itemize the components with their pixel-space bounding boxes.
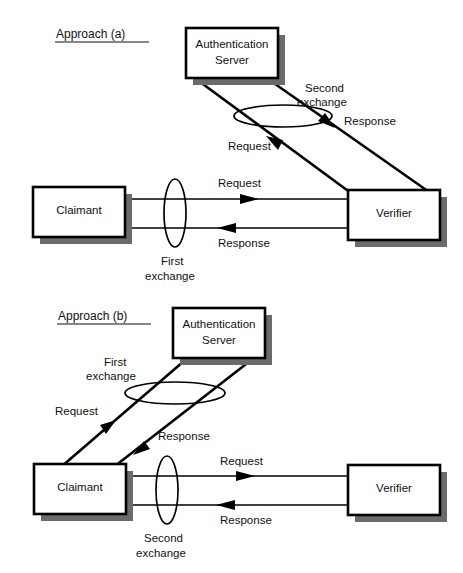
a-second-exchange-response-line xyxy=(268,79,432,194)
b-auth-server-label-line1: Authentication xyxy=(183,318,256,330)
b-verifier-label: Verifier xyxy=(376,482,412,494)
a-node-verifier[interactable]: Verifier xyxy=(348,190,447,247)
b-first-exchange-label-line2: exchange xyxy=(86,370,136,382)
a-node-authentication-server[interactable]: Authentication Server xyxy=(186,28,285,85)
a-auth-server-box xyxy=(186,28,278,78)
b-second-exchange-lens xyxy=(156,456,178,524)
b-first-exchange-response-label: Response xyxy=(158,430,210,442)
b-second-exchange-response-arrowhead xyxy=(216,500,235,510)
b-auth-server-label-line2: Server xyxy=(202,334,236,346)
a-second-exchange-label-line2: exchange xyxy=(297,96,347,108)
a-verifier-label: Verifier xyxy=(376,207,412,219)
approach-b-caption: Approach (b) xyxy=(58,309,127,323)
a-auth-server-label-line1: Authentication xyxy=(196,38,269,50)
b-second-exchange-response-label: Response xyxy=(220,514,272,526)
b-first-exchange-label-line1: First xyxy=(104,356,127,368)
b-first-exchange-response-arrowhead xyxy=(133,441,150,455)
a-second-exchange-response-label: Response xyxy=(344,115,396,127)
a-second-exchange-lens xyxy=(234,105,332,127)
approach-b-group: Approach (b) First exchange Request Resp… xyxy=(34,308,447,559)
b-second-exchange-request-label: Request xyxy=(220,455,264,467)
a-auth-server-label-line2: Server xyxy=(215,54,249,66)
a-first-exchange-response-arrowhead xyxy=(217,223,236,233)
b-claimant-label: Claimant xyxy=(57,481,103,493)
b-second-exchange-label-line2: exchange xyxy=(136,547,186,559)
a-claimant-label: Claimant xyxy=(56,204,102,216)
b-node-authentication-server[interactable]: Authentication Server xyxy=(173,308,272,365)
a-node-claimant[interactable]: Claimant xyxy=(33,187,132,244)
b-auth-server-box xyxy=(173,308,265,358)
a-first-exchange-request-label: Request xyxy=(218,177,262,189)
b-first-exchange-request-label: Request xyxy=(55,405,99,417)
b-second-exchange-request-arrowhead xyxy=(236,471,255,481)
a-first-exchange-request-arrowhead xyxy=(240,194,259,204)
b-second-exchange-label-line1: Second xyxy=(144,532,183,544)
approach-a-group: Approach (a) Second exchange Response Re… xyxy=(33,27,447,282)
a-second-exchange-request-label: Request xyxy=(228,140,272,152)
b-node-verifier[interactable]: Verifier xyxy=(348,465,447,522)
a-second-exchange-label-line1: Second xyxy=(305,82,344,94)
authentication-approaches-diagram: Approach (a) Second exchange Response Re… xyxy=(0,0,463,573)
a-first-exchange-label-line1: First xyxy=(161,255,184,267)
a-first-exchange-lens xyxy=(164,179,186,247)
b-node-claimant[interactable]: Claimant xyxy=(34,464,133,521)
approach-a-caption: Approach (a) xyxy=(56,27,125,41)
a-first-exchange-response-label: Response xyxy=(218,237,270,249)
a-first-exchange-label-line2: exchange xyxy=(145,270,195,282)
